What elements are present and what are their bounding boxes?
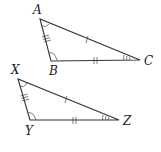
vertex-label-a: A <box>32 3 42 17</box>
side-ac-tick-mark <box>86 36 88 43</box>
angle-x-arc <box>20 83 27 87</box>
vertex-label-b: B <box>48 64 58 78</box>
vertex-label-y: Y <box>25 124 34 138</box>
side-xz-tick-mark <box>65 96 67 103</box>
vertex-label-z: Z <box>122 114 132 128</box>
triangle-abc: A B C <box>32 3 153 78</box>
diagram-canvas: A B C X Y Z <box>0 0 161 152</box>
vertex-label-x: X <box>10 63 20 77</box>
side-ab-tick-marks <box>42 35 51 42</box>
triangle-xyz-outline <box>18 79 119 120</box>
triangle-abc-outline <box>40 19 140 61</box>
side-xy-tick-marks <box>21 94 30 101</box>
vertex-label-c: C <box>144 54 153 68</box>
angle-a-arc <box>42 24 49 27</box>
triangle-xyz: X Y Z <box>10 63 132 138</box>
